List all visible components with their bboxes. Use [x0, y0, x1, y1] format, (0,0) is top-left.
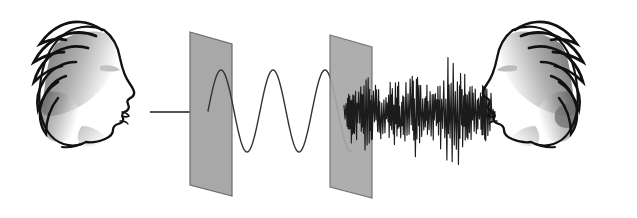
speaker-brow-shading	[100, 65, 120, 71]
channel-plane-input	[190, 32, 232, 196]
diagram-canvas	[0, 0, 637, 218]
listener-brow-shading	[497, 65, 517, 71]
signal-transmission-diagram	[0, 0, 637, 218]
speaker-head	[34, 22, 134, 147]
listener-head	[483, 22, 583, 147]
